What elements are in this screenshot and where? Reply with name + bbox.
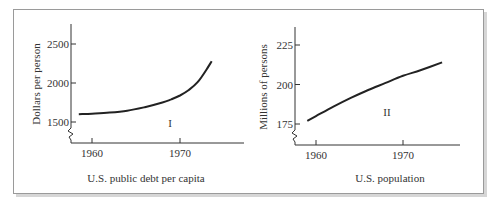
charts-canvas: Dollars per person 150020002500 19601970… (0, 0, 492, 203)
chart-population: Millions of persons 175200225 19601970 I… (257, 27, 460, 184)
y-axis-title: Dollars per person (30, 43, 42, 125)
chart-caption: U.S. population (355, 172, 425, 184)
x-tick-label: 1970 (392, 149, 415, 161)
panel-label: II (383, 106, 391, 118)
x-tick-label: 1970 (169, 147, 192, 159)
chart-debt-per-capita: Dollars per person 150020002500 19601970… (30, 24, 244, 184)
y-axis-title: Millions of persons (257, 44, 269, 130)
x-tick-label: 1960 (81, 147, 104, 159)
data-line (307, 62, 442, 120)
y-tick-label: 2500 (47, 38, 70, 50)
y-tick-label: 200 (277, 79, 294, 91)
x-tick-label: 1960 (305, 149, 328, 161)
y-tick-label: 1500 (47, 116, 70, 128)
y-tick-label: 175 (277, 118, 294, 130)
axis-break-icon (292, 130, 297, 145)
panel-label: I (168, 117, 172, 129)
data-line (79, 61, 212, 114)
axis-break-icon (68, 128, 73, 143)
y-tick-label: 2000 (47, 77, 70, 89)
y-tick-label: 225 (277, 39, 294, 51)
chart-caption: U.S. public debt per capita (87, 172, 204, 184)
